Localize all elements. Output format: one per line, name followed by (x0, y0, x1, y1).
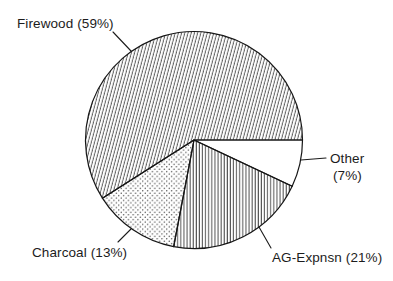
pie-chart-figure: Firewood (59%) Other (7%) AG-Expnsn (21%… (0, 0, 393, 281)
leader-line-charcoal (118, 229, 131, 242)
leader-line-ag-expnsn (259, 227, 271, 248)
label-other: Other (7%) (330, 150, 364, 184)
leader-line-other (301, 158, 326, 160)
label-charcoal: Charcoal (13%) (32, 244, 127, 261)
label-firewood: Firewood (59%) (17, 15, 114, 32)
label-other-line1: Other (330, 150, 364, 167)
leader-line-firewood (113, 32, 131, 51)
label-ag-expnsn: AG-Expnsn (21%) (272, 249, 382, 266)
pie-slices-group (86, 32, 303, 249)
label-other-line2: (7%) (330, 167, 364, 184)
pie-chart-svg (0, 0, 393, 281)
